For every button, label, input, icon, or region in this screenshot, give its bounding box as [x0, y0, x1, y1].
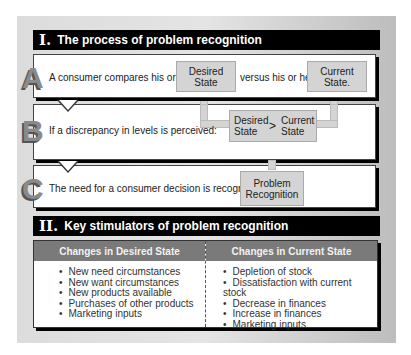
column-divider — [205, 241, 206, 327]
list-item: Dissatisfaction with current stock — [223, 278, 377, 299]
row-c-text: The need for a consumer decision is reco… — [49, 183, 265, 194]
section-2-title: Key stimulators of problem recognition — [64, 219, 288, 233]
list-item: Marketing inputs — [223, 320, 377, 331]
connector-current-elbow — [316, 120, 338, 128]
current-state-list: Depletion of stock Dissatisfaction with … — [223, 267, 377, 331]
connector-to-problem — [268, 160, 276, 170]
compare-left-line1: Desired — [234, 115, 268, 126]
section-1-header: I. The process of problem recognition — [33, 30, 380, 50]
section-2-header: II. Key stimulators of problem recogniti… — [33, 216, 380, 236]
section-1-numeral: I. — [39, 31, 51, 49]
flow-arrow-b-c-fill — [59, 161, 77, 171]
desired-state-box: Desired State — [176, 61, 236, 92]
list-item: Marketing inputs — [59, 309, 194, 320]
letter-a-icon: A — [22, 63, 44, 93]
greater-than-icon: > — [269, 121, 276, 132]
problem-recognition-box: Problem Recognition — [240, 171, 304, 206]
list-item: New need circumstances — [59, 267, 194, 278]
row-b-text: If a discrepancy in levels is perceived: — [49, 125, 217, 136]
comparison-box: Desired State > Current State — [229, 110, 317, 142]
column-header-current: Changes in Current State — [206, 241, 377, 261]
result-line1: Problem — [253, 178, 290, 189]
list-item: Depletion of stock — [223, 267, 377, 278]
stimulators-table: Changes in Desired State Changes in Curr… — [33, 240, 378, 328]
letter-b-icon: B — [22, 116, 44, 146]
row-a-middle-text: versus his or her — [240, 72, 314, 83]
compare-right-line1: Current — [281, 115, 314, 126]
result-line2: Recognition — [246, 189, 299, 200]
column-header-desired: Changes in Desired State — [34, 241, 205, 261]
section-1-title: The process of problem recognition — [57, 33, 262, 47]
current-state-box: Current State. — [307, 61, 367, 92]
desired-state-list: New need circumstances New want circumst… — [59, 267, 194, 320]
row-a-text: A consumer compares his or her — [49, 72, 193, 83]
section-2-numeral: II. — [39, 217, 58, 235]
compare-right-line2: State — [281, 126, 304, 137]
letter-c-icon: C — [22, 174, 44, 204]
compare-left-line2: State — [234, 126, 257, 137]
flow-arrow-a-b-fill — [59, 100, 77, 110]
